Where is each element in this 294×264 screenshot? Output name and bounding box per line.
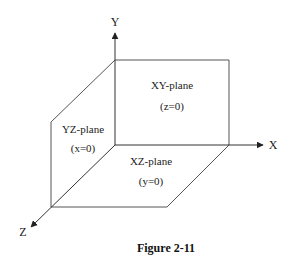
coordinate-planes-diagram: Y X Z XY-plane (z=0) YZ-plane (x=0) XZ-p… — [0, 0, 294, 264]
xy-plane-label: XY-plane — [151, 79, 193, 91]
xz-plane-equation: (y=0) — [139, 175, 164, 188]
z-axis-label: Z — [19, 225, 26, 239]
y-axis-label: Y — [111, 15, 120, 29]
x-axis-label: X — [269, 138, 278, 152]
figure-caption: Figure 2-11 — [137, 241, 195, 255]
z-axis — [31, 145, 115, 227]
yz-plane-equation: (x=0) — [71, 142, 96, 155]
xy-plane-equation: (z=0) — [160, 100, 184, 113]
yz-plane-label: YZ-plane — [62, 123, 104, 135]
xz-plane-label: XZ-plane — [130, 155, 172, 167]
